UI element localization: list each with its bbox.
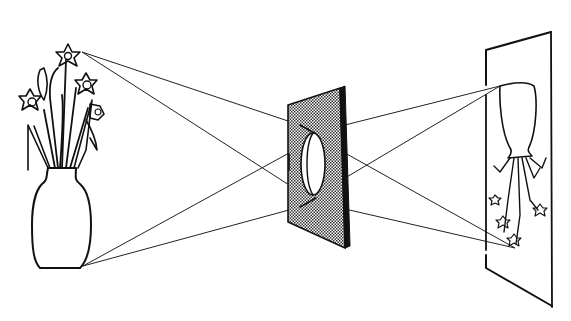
inverted-vase-image	[489, 83, 547, 246]
convex-lens	[301, 133, 325, 195]
vase-with-daffodils	[19, 44, 104, 268]
lens-board	[288, 86, 350, 248]
diagram-canvas	[0, 0, 571, 321]
lens-projection-diagram: Convex lens forming an inverted real ima…	[0, 0, 571, 321]
